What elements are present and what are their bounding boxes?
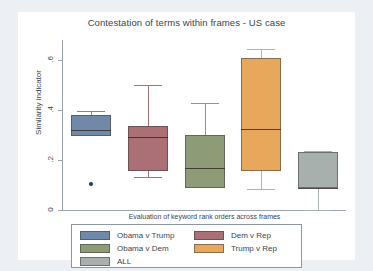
legend-item[interactable]: Trump v Rep (194, 242, 277, 254)
legend-item[interactable]: Obama v Trump (80, 229, 174, 241)
chart-legend: Obama v TrumpDem v RepObama v DemTrump v… (71, 224, 302, 268)
legend-swatch (80, 231, 110, 240)
y-tick-label: .4 (46, 104, 55, 116)
legend-item[interactable]: ALL (80, 255, 131, 267)
y-tick-mark (58, 60, 62, 61)
whisker-cap-upper (77, 111, 105, 112)
legend-label: Dem v Rep (231, 231, 271, 240)
median-line (241, 129, 281, 130)
whisker-cap-upper (191, 103, 219, 104)
median-line (298, 188, 338, 189)
legend-swatch (194, 231, 224, 240)
legend-item[interactable]: Dem v Rep (194, 229, 271, 241)
chart-card: Contestation of terms within frames - US… (18, 12, 355, 260)
whisker-upper (148, 85, 149, 126)
box-rect (241, 58, 281, 171)
median-line (128, 137, 168, 138)
median-line (185, 168, 225, 169)
legend-item[interactable]: Obama v Dem (80, 242, 169, 254)
y-tick-label: .2 (46, 154, 55, 166)
whisker-cap-upper (247, 49, 275, 50)
legend-swatch (194, 244, 224, 253)
legend-label: ALL (117, 257, 131, 266)
y-tick-mark (58, 210, 62, 211)
chart-figure: Contestation of terms within frames - US… (0, 0, 373, 271)
whisker-lower (261, 171, 262, 189)
legend-label: Trump v Rep (231, 244, 277, 253)
y-tick-mark (58, 160, 62, 161)
box-rect (128, 126, 168, 171)
chart-title: Contestation of terms within frames - US… (18, 17, 355, 28)
whisker-cap-lower (134, 177, 162, 178)
box-rect (298, 152, 338, 188)
median-line (71, 130, 111, 131)
whisker-upper (205, 103, 206, 135)
whisker-lower (318, 188, 319, 210)
legend-label: Obama v Trump (117, 231, 174, 240)
whisker-cap-lower (304, 210, 332, 211)
y-tick-label: .6 (46, 54, 55, 66)
y-tick-label: 0 (46, 204, 55, 216)
whisker-cap-lower (247, 189, 275, 190)
legend-swatch (80, 257, 110, 266)
box-rect (71, 115, 111, 137)
whisker-upper (261, 49, 262, 58)
y-axis-title: Similarity indicator (34, 43, 43, 163)
box-rect (185, 135, 225, 189)
y-tick-mark (58, 110, 62, 111)
x-axis-title: Evaluation of keyword rank orders across… (63, 213, 346, 220)
legend-label: Obama v Dem (117, 244, 169, 253)
legend-swatch (80, 244, 110, 253)
whisker-cap-upper (134, 85, 162, 86)
